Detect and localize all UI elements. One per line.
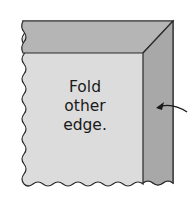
instruction-label: Fold other edge. <box>40 78 130 135</box>
label-line-1: Fold <box>40 78 130 97</box>
label-line-3: edge. <box>40 116 130 135</box>
label-line-2: other <box>40 97 130 116</box>
